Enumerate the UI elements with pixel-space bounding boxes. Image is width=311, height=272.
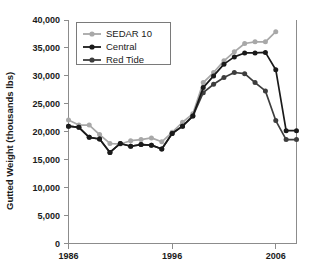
- data-point: [273, 118, 278, 123]
- data-point: [66, 124, 71, 129]
- data-point: [294, 128, 299, 133]
- data-point: [263, 50, 268, 55]
- data-point: [242, 71, 247, 76]
- data-point: [201, 80, 206, 85]
- data-point: [221, 62, 226, 67]
- data-point: [263, 88, 268, 93]
- data-point: [253, 80, 258, 85]
- data-point: [149, 135, 154, 140]
- data-point: [159, 147, 164, 152]
- data-point: [118, 141, 123, 146]
- data-point: [128, 138, 133, 143]
- x-tick-label: 1996: [162, 251, 182, 261]
- data-point: [87, 123, 92, 128]
- data-point: [87, 135, 92, 140]
- data-point: [170, 131, 175, 136]
- y-tick-label: 20,000: [32, 127, 60, 137]
- y-tick-label: 0: [55, 239, 60, 249]
- y-tick-label: 15,000: [32, 155, 60, 165]
- data-point: [128, 144, 133, 149]
- data-point: [232, 54, 237, 59]
- data-point: [294, 137, 299, 142]
- legend-marker-icon: [89, 57, 94, 62]
- data-point: [107, 150, 112, 155]
- data-point: [190, 114, 195, 119]
- data-point: [284, 137, 289, 142]
- data-point: [159, 139, 164, 144]
- data-point: [232, 70, 237, 75]
- data-point: [253, 39, 258, 44]
- legend-marker-icon: [89, 31, 94, 36]
- data-point: [97, 132, 102, 137]
- data-point: [107, 141, 112, 146]
- data-point: [139, 137, 144, 142]
- data-point: [211, 73, 216, 78]
- data-point: [149, 143, 154, 148]
- y-tick-label: 35,000: [32, 43, 60, 53]
- legend-label: SEDAR 10: [106, 28, 152, 39]
- y-tick-label: 5,000: [37, 211, 60, 221]
- chart-container: 05,00010,00015,00020,00025,00030,00035,0…: [0, 0, 311, 272]
- x-tick-label: 2006: [266, 251, 286, 261]
- legend-label: Central: [106, 41, 137, 52]
- data-point: [221, 75, 226, 80]
- x-tick-label: 1986: [58, 251, 78, 261]
- data-point: [66, 118, 71, 123]
- y-tick-label: 10,000: [32, 183, 60, 193]
- series-line-red-tide: [69, 73, 297, 153]
- y-axis-title: Gutted Weight (thousands lbs): [4, 72, 15, 210]
- x-axis-ticks: 198619962006: [58, 244, 285, 262]
- data-point: [76, 125, 81, 130]
- y-tick-label: 25,000: [32, 99, 60, 109]
- y-tick-label: 30,000: [32, 71, 60, 81]
- data-point: [242, 50, 247, 55]
- data-point: [253, 50, 258, 55]
- data-point: [273, 67, 278, 72]
- data-point: [201, 85, 206, 90]
- data-point: [97, 137, 102, 142]
- y-tick-label: 40,000: [32, 15, 60, 25]
- data-point: [139, 142, 144, 147]
- data-point: [273, 29, 278, 34]
- chart-legend: SEDAR 10CentralRed Tide: [77, 23, 171, 66]
- y-axis-ticks: 05,00010,00015,00020,00025,00030,00035,0…: [32, 15, 68, 249]
- data-point: [242, 41, 247, 46]
- data-point: [232, 49, 237, 54]
- data-point: [180, 124, 185, 129]
- line-chart: 05,00010,00015,00020,00025,00030,00035,0…: [0, 0, 311, 272]
- data-point: [284, 128, 289, 133]
- legend-label: Red Tide: [106, 54, 144, 65]
- legend-marker-icon: [89, 44, 94, 49]
- data-point: [211, 82, 216, 87]
- data-point: [263, 39, 268, 44]
